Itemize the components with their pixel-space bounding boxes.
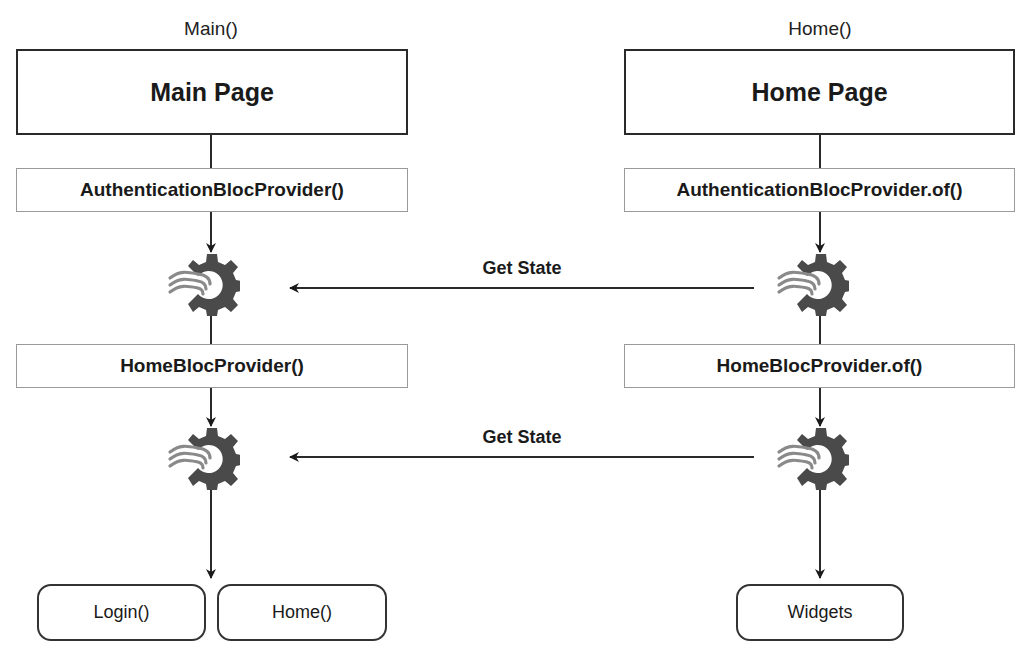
home-bloc-provider-label: HomeBlocProvider()	[120, 355, 304, 377]
bloc-gear-icon	[775, 252, 849, 320]
widgets-label: Widgets	[787, 602, 852, 623]
auth-bloc-provider-of-label: AuthenticationBlocProvider.of()	[676, 179, 962, 201]
bloc-gear-icon	[166, 426, 240, 494]
auth-bloc-provider-of-box: AuthenticationBlocProvider.of()	[624, 168, 1015, 212]
home-bloc-provider-box: HomeBlocProvider()	[16, 344, 408, 388]
home-page-title: Home Page	[751, 78, 887, 107]
main-page-title: Main Page	[150, 78, 274, 107]
main-caption: Main()	[111, 18, 311, 40]
bloc-gear-icon	[775, 426, 849, 494]
main-page-box: Main Page	[16, 49, 408, 135]
home-caption: Home()	[720, 18, 920, 40]
auth-bloc-provider-box: AuthenticationBlocProvider()	[16, 168, 408, 212]
bloc-gear-icon	[166, 252, 240, 320]
login-label: Login()	[93, 602, 149, 623]
get-state-label-home: Get State	[422, 427, 622, 448]
auth-bloc-provider-label: AuthenticationBlocProvider()	[80, 179, 344, 201]
home-label: Home()	[272, 602, 332, 623]
widgets-box: Widgets	[736, 584, 904, 641]
home-bloc-provider-of-box: HomeBlocProvider.of()	[624, 344, 1015, 388]
home-box: Home()	[217, 584, 387, 641]
home-bloc-provider-of-label: HomeBlocProvider.of()	[717, 355, 923, 377]
get-state-label-auth: Get State	[422, 258, 622, 279]
home-page-box: Home Page	[624, 49, 1015, 135]
login-box: Login()	[37, 584, 206, 641]
